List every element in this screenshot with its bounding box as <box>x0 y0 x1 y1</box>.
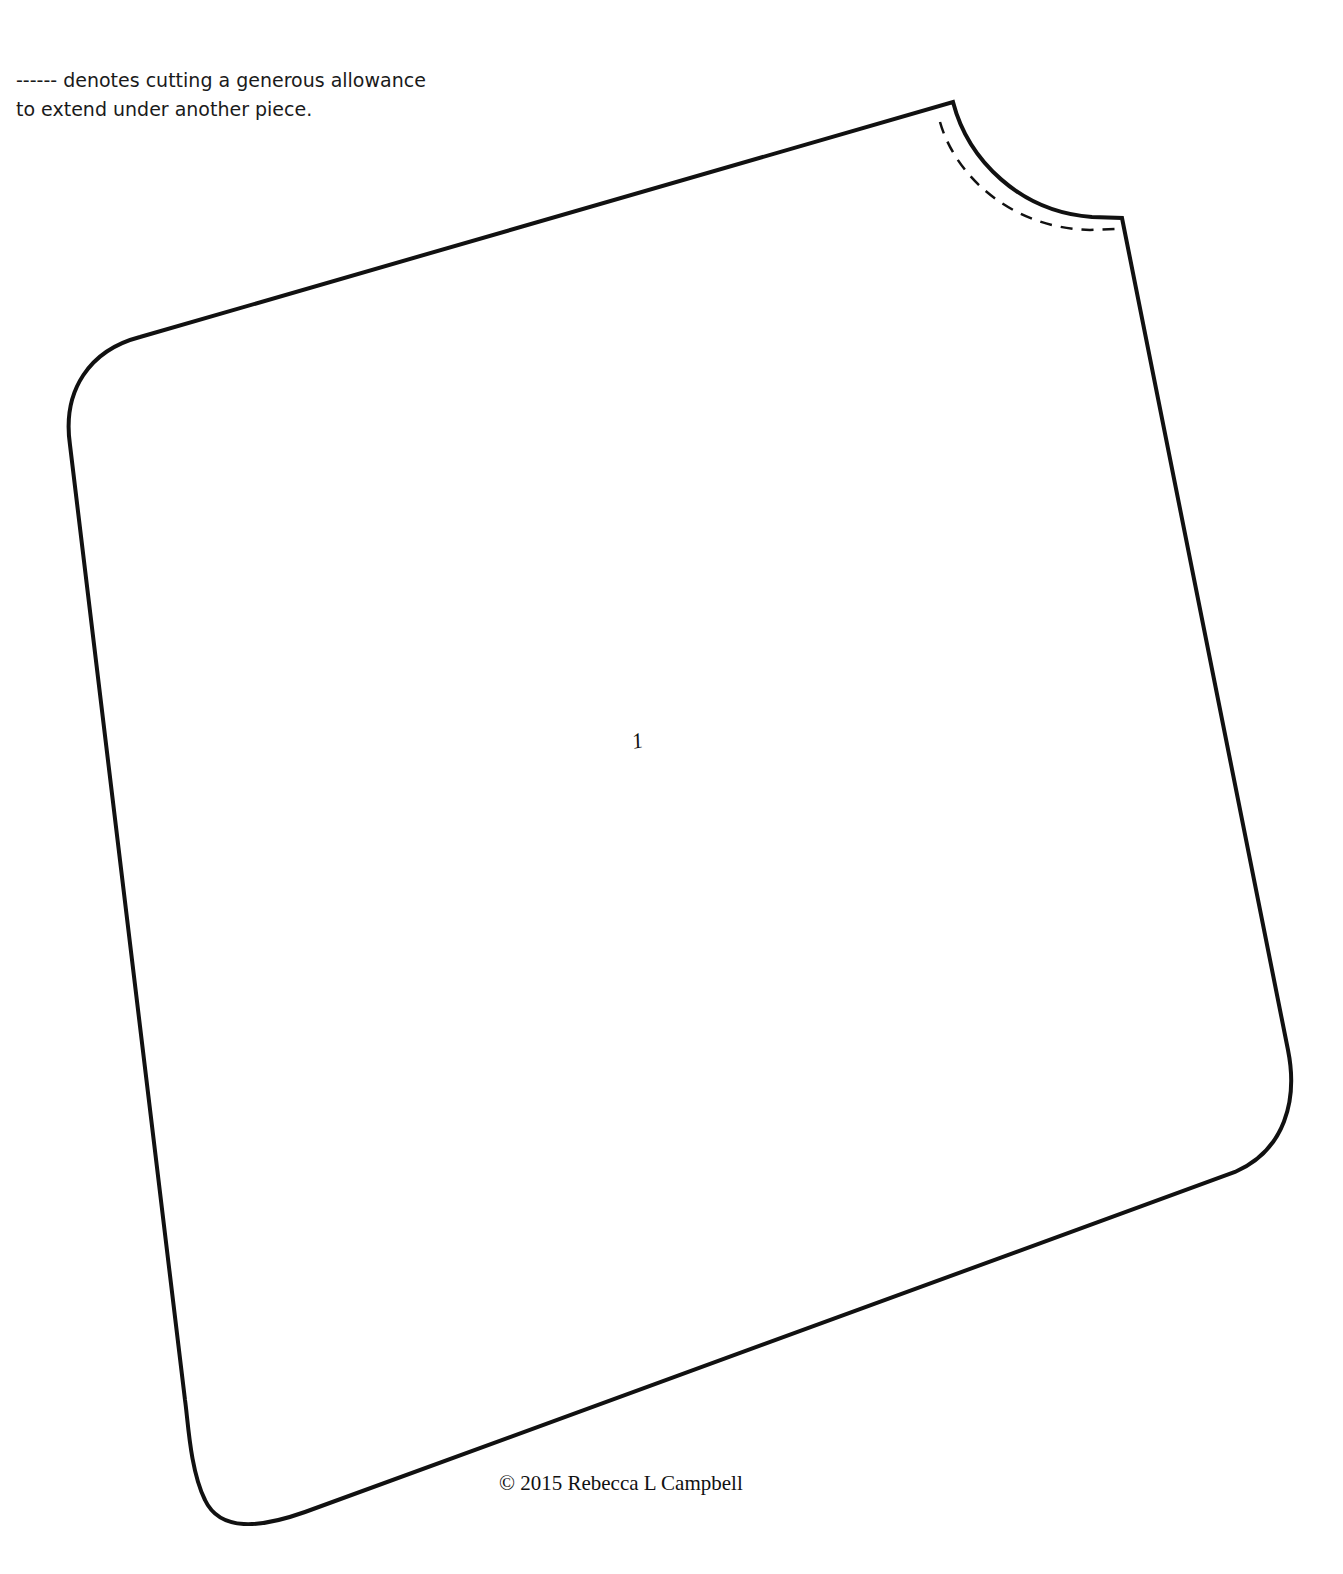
copyright-notice: © 2015 Rebecca L Campbell <box>499 1471 743 1496</box>
pattern-piece <box>0 0 1343 1574</box>
pattern-piece-outline <box>69 102 1291 1524</box>
